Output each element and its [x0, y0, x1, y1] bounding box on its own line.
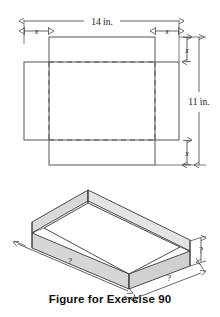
box-ext-line-right — [196, 258, 205, 272]
x-label-top-right: x — [164, 27, 169, 36]
box-group: ? ? ? — [14, 190, 206, 303]
figure-caption: Figure for Exercise 90 — [0, 292, 220, 306]
sheet-horizontal-rect — [24, 62, 179, 140]
sheet-vertical-rect — [49, 37, 155, 165]
width-dimension-label: 14 in. — [91, 17, 113, 27]
figure-svg: 14 in. x x 11 in. x — [0, 0, 220, 317]
box-ext-line-height-top — [190, 236, 206, 241]
x-label-right-top: x — [184, 46, 189, 55]
box-height-label: ? — [199, 245, 203, 255]
flat-pattern-group: 14 in. x x 11 in. x — [24, 17, 210, 166]
box-width-label: ? — [167, 273, 171, 283]
x-label-top-left: x — [34, 27, 39, 36]
figure-container: 14 in. x x 11 in. x — [0, 0, 220, 317]
height-dimension-label: 11 in. — [188, 97, 209, 107]
x-label-right-bottom: x — [184, 149, 189, 158]
box-length-label: ? — [68, 256, 72, 266]
